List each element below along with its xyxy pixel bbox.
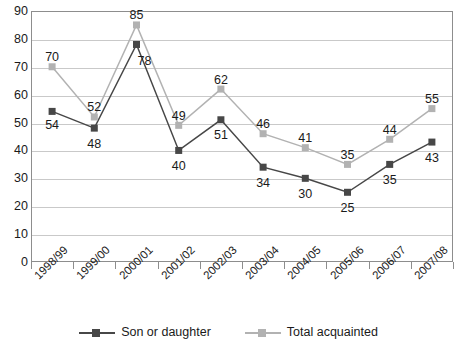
x-axis-tick — [158, 262, 159, 269]
data-point-label: 62 — [214, 74, 228, 87]
legend-item[interactable]: Total acquainted — [245, 326, 378, 339]
y-axis-tick-label: 50 — [2, 117, 28, 130]
data-point-label: 25 — [341, 202, 355, 215]
data-point-label: 85 — [130, 9, 144, 22]
data-point-label: 40 — [172, 160, 186, 173]
x-axis-tick — [200, 262, 201, 269]
y-axis-tick-label: 40 — [2, 144, 28, 157]
data-point-label: 43 — [425, 152, 439, 165]
data-point-label: 46 — [256, 118, 270, 131]
data-point-label: 54 — [45, 119, 59, 132]
data-point-label: 49 — [172, 110, 186, 123]
data-point-label: 52 — [87, 101, 101, 114]
y-axis-tick-label: 10 — [2, 228, 28, 241]
legend-marker — [258, 329, 266, 337]
y-axis-tick-label: 0 — [2, 256, 28, 269]
x-axis-tick — [326, 262, 327, 269]
x-axis-tick — [73, 262, 74, 269]
y-axis-tick-label: 90 — [2, 5, 28, 18]
legend-marker — [92, 329, 100, 337]
data-point-label: 35 — [383, 174, 397, 187]
gridline — [32, 235, 452, 236]
gridline — [32, 68, 452, 69]
data-point-label: 78 — [138, 55, 152, 68]
x-axis-tick — [369, 262, 370, 269]
x-axis-tick — [115, 262, 116, 269]
legend-label: Son or daughter — [121, 326, 211, 339]
data-point-label: 35 — [341, 149, 355, 162]
x-axis-tick — [284, 262, 285, 269]
line-chart: 9080706050403020100 54487840513430253543… — [0, 0, 457, 345]
legend-swatch-icon — [245, 327, 281, 338]
data-point-label: 55 — [425, 93, 439, 106]
legend-label: Total acquainted — [287, 326, 378, 339]
legend-swatch-icon — [79, 327, 115, 338]
x-axis-tick — [411, 262, 412, 269]
y-axis-tick-label: 30 — [2, 172, 28, 185]
y-axis-tick-label: 20 — [2, 200, 28, 213]
gridline — [32, 151, 452, 152]
y-axis-tick-label: 60 — [2, 89, 28, 102]
data-point-label: 48 — [87, 138, 101, 151]
data-point-label: 51 — [214, 129, 228, 142]
data-point-label: 44 — [383, 124, 397, 137]
gridline — [32, 96, 452, 97]
gridline — [32, 207, 452, 208]
legend-item[interactable]: Son or daughter — [79, 326, 211, 339]
gridline — [32, 40, 452, 41]
y-axis-tick-label: 70 — [2, 61, 28, 74]
y-axis: 9080706050403020100 — [0, 0, 28, 275]
x-axis-tick — [453, 262, 454, 269]
data-point-label: 30 — [298, 188, 312, 201]
data-point-label: 41 — [298, 132, 312, 145]
x-axis-tick — [242, 262, 243, 269]
x-axis-tick — [31, 262, 32, 269]
y-axis-tick-label: 80 — [2, 33, 28, 46]
data-point-label: 34 — [256, 177, 270, 190]
chart-legend: Son or daughterTotal acquainted — [0, 320, 457, 345]
data-point-label: 70 — [45, 51, 59, 64]
